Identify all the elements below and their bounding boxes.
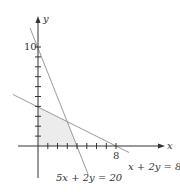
x-axis-label: x: [167, 140, 173, 151]
graph-canvas: y x 10 8 x + 2y = 8 5x + 2y = 20: [0, 0, 180, 195]
line-5x-2y-20: [30, 28, 88, 174]
feasible-region: [38, 107, 77, 146]
x-axis-arrow-icon: [158, 144, 165, 149]
y-axis-arrow-icon: [36, 16, 41, 23]
y-tick-label-10: 10: [24, 41, 37, 52]
y-axis-label: y: [42, 13, 49, 24]
x-tick-label-8: 8: [113, 150, 119, 161]
label-x-2y-8: x + 2y = 8: [128, 161, 180, 172]
graph-svg: y x 10 8 x + 2y = 8 5x + 2y = 20: [0, 0, 180, 195]
label-5x-2y-20: 5x + 2y = 20: [56, 172, 123, 183]
